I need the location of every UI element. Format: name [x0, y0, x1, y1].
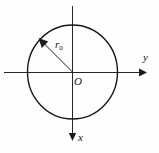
y-axis-label: y	[143, 52, 148, 63]
vertical-axis-arrowhead	[69, 133, 76, 141]
x-axis-label: x	[78, 132, 83, 143]
figure-container: r0 O y x	[0, 0, 159, 153]
origin-label: O	[74, 76, 82, 87]
radius-subscript: 0	[59, 44, 63, 52]
horizontal-axis-arrowhead	[139, 69, 147, 77]
radius-label: r0	[55, 39, 63, 52]
